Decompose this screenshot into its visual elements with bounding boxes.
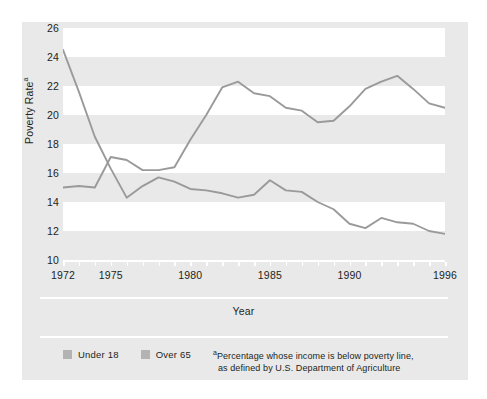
footnote-line-1: Percentage whose income is below poverty… bbox=[217, 351, 414, 361]
y-tick-label: 16 bbox=[31, 167, 59, 179]
x-tick-label: 1996 bbox=[433, 269, 457, 281]
x-tick-mark bbox=[79, 262, 81, 266]
series-line-under-18 bbox=[63, 76, 445, 188]
x-tick-label: 1975 bbox=[99, 269, 123, 281]
x-axis: 197219751980198519901996 bbox=[63, 260, 445, 290]
x-tick-label: 1990 bbox=[337, 269, 361, 281]
x-tick-mark bbox=[270, 262, 272, 266]
x-tick-mark bbox=[318, 262, 320, 266]
x-tick-mark bbox=[350, 262, 352, 266]
x-tick-mark bbox=[206, 262, 208, 266]
x-tick-mark bbox=[63, 262, 65, 266]
x-tick-mark bbox=[111, 262, 113, 266]
x-tick-mark bbox=[397, 262, 399, 266]
x-axis-title: Year bbox=[0, 305, 487, 317]
y-tick-label: 14 bbox=[31, 196, 59, 208]
y-tick-label: 12 bbox=[31, 225, 59, 237]
legend-label-under-18: Under 18 bbox=[78, 349, 119, 360]
x-tick-mark bbox=[413, 262, 415, 266]
x-tick-mark bbox=[334, 262, 336, 266]
x-tick-mark bbox=[445, 262, 447, 266]
legend-label-over-65: Over 65 bbox=[156, 349, 191, 360]
y-tick-label: 10 bbox=[31, 254, 59, 266]
poverty-rate-chart-figure: Poverty Ratea 101214161820222426 1972197… bbox=[0, 0, 487, 399]
divider-upper bbox=[40, 297, 448, 299]
x-tick-mark bbox=[381, 262, 383, 266]
x-tick-mark bbox=[190, 262, 192, 266]
x-tick-label: 1985 bbox=[258, 269, 282, 281]
x-tick-label: 1972 bbox=[51, 269, 75, 281]
x-tick-mark bbox=[429, 262, 431, 266]
x-tick-mark bbox=[159, 262, 161, 266]
x-tick-mark bbox=[222, 262, 224, 266]
x-tick-mark bbox=[254, 262, 256, 266]
y-tick-label: 26 bbox=[31, 22, 59, 34]
x-tick-mark bbox=[174, 262, 176, 266]
y-tick-label: 18 bbox=[31, 138, 59, 150]
x-tick-mark bbox=[238, 262, 240, 266]
footnote: aPercentage whose income is below povert… bbox=[213, 348, 414, 374]
series-lines bbox=[63, 28, 445, 260]
y-tick-label: 20 bbox=[31, 109, 59, 121]
y-tick-label: 24 bbox=[31, 51, 59, 63]
x-tick-label: 1980 bbox=[178, 269, 202, 281]
legend-swatch-icon-over-65 bbox=[141, 350, 150, 359]
plot-canvas bbox=[63, 28, 445, 260]
divider-lower bbox=[40, 336, 448, 338]
x-tick-mark bbox=[95, 262, 97, 266]
x-tick-mark bbox=[286, 262, 288, 266]
x-tick-mark bbox=[127, 262, 129, 266]
x-tick-mark bbox=[365, 262, 367, 266]
footnote-line-2: as defined by U.S. Department of Agricul… bbox=[213, 363, 414, 375]
legend-swatch-icon-under-18 bbox=[63, 350, 72, 359]
x-tick-mark bbox=[143, 262, 145, 266]
x-tick-mark bbox=[302, 262, 304, 266]
series-line-over-65 bbox=[63, 50, 445, 234]
y-axis-ticks: 101214161820222426 bbox=[27, 28, 59, 260]
y-tick-label: 22 bbox=[31, 80, 59, 92]
legend-item-under-18: Under 18 bbox=[63, 348, 119, 360]
legend-item-over-65: Over 65 bbox=[141, 348, 191, 360]
legend: Under 18 Over 65 aPercentage whose incom… bbox=[63, 348, 414, 376]
plot-area bbox=[63, 28, 445, 260]
